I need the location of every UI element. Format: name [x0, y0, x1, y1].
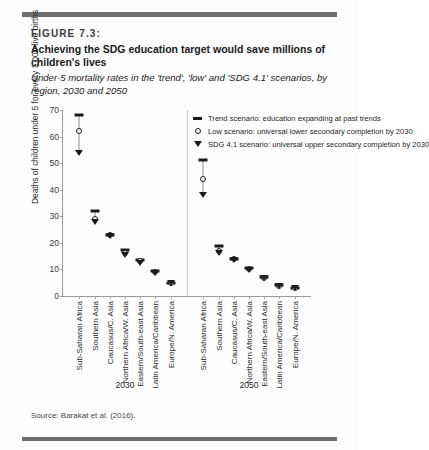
x-axis-category-text: Caucasus/C. Asia	[229, 301, 238, 364]
y-axis-tick-label: 70	[50, 105, 59, 115]
x-axis-category-text: Southern Asia	[214, 301, 223, 351]
legend-item: Trend scenario: education expanding at p…	[191, 112, 429, 124]
x-axis-category-text: Europe/N. America	[166, 301, 175, 368]
sdg-marker	[215, 250, 223, 256]
y-axis-tick-mark	[60, 269, 63, 270]
sdg-marker	[291, 285, 299, 291]
sdg-marker	[151, 270, 159, 276]
figure-title: Achieving the SDG education target would…	[31, 43, 331, 69]
figure-source: Source: Barakat et al. (2016).	[31, 411, 136, 420]
x-axis-tick-mark	[279, 296, 280, 299]
x-axis-tick-mark	[171, 296, 172, 299]
y-axis-tick-mark	[60, 296, 63, 297]
legend-marker	[191, 141, 204, 147]
x-axis-tick-mark	[219, 296, 220, 299]
trend-marker	[199, 159, 208, 162]
y-axis-tick-label: 40	[50, 185, 59, 195]
y-axis-tick-label: 60	[50, 132, 59, 142]
y-axis-tick-label: 10	[50, 264, 59, 274]
x-axis-category-text: Eastern/South-east Asia	[260, 301, 269, 387]
sdg-marker	[245, 267, 253, 273]
sdg-marker	[121, 252, 129, 258]
legend-marker	[191, 128, 204, 134]
y-axis-tick-mark	[60, 243, 63, 244]
x-axis-tick-mark	[234, 296, 235, 299]
sdg-marker	[260, 275, 268, 281]
y-axis-tick-mark	[60, 163, 63, 164]
trend-marker	[75, 114, 84, 117]
low-marker	[200, 176, 206, 182]
x-axis-category-text: Northern Africa/W. Asia	[121, 301, 130, 383]
figure-subtitle: Under-5 mortality rates in the 'trend', …	[31, 72, 333, 97]
sdg-marker	[167, 280, 175, 286]
x-axis-category-text: Latin America/Caribbean	[275, 301, 284, 389]
low-marker	[76, 128, 82, 134]
sdg-marker	[75, 150, 83, 156]
triangle-down-icon	[194, 141, 202, 147]
sdg-marker	[199, 192, 207, 198]
legend-item: SDG 4.1 scenario: universal upper second…	[191, 138, 429, 150]
chart-area: Deaths of children under 5 for every 1,0…	[0, 104, 359, 404]
sdg-marker	[230, 257, 238, 263]
chart-legend: Trend scenario: education expanding at p…	[191, 112, 429, 151]
x-axis-category-text: Sub-Saharan Africa	[199, 301, 208, 370]
sdg-marker	[136, 260, 144, 266]
x-axis-category-text: Northern Africa/W. Asia	[245, 301, 254, 383]
x-axis-tick-mark	[95, 296, 96, 299]
figure-label: FIGURE 7.3:	[31, 28, 101, 39]
trend-icon	[193, 117, 202, 120]
x-axis-group-label: 2050	[239, 380, 258, 390]
x-axis-category-text: Latin America/Caribbean	[151, 301, 160, 389]
legend-label: SDG 4.1 scenario: universal upper second…	[208, 140, 429, 149]
x-axis-category-text: Sub-Saharan Africa	[75, 301, 84, 370]
trend-marker	[90, 209, 99, 212]
y-axis-tick-mark	[60, 190, 63, 191]
x-axis-tick-mark	[79, 296, 80, 299]
legend-label: Low scenario: universal lower secondary …	[208, 127, 413, 136]
y-axis-tick-label: 30	[50, 211, 59, 221]
x-axis-tick-mark	[110, 296, 111, 299]
x-axis-tick-mark	[125, 296, 126, 299]
x-axis-tick-mark	[155, 296, 156, 299]
legend-marker	[191, 117, 204, 120]
sdg-marker	[91, 219, 99, 225]
legend-item: Low scenario: universal lower secondary …	[191, 125, 429, 137]
y-axis-title: Deaths of children under 5 for every 1,0…	[30, 10, 40, 204]
x-axis-category-text: Southern Asia	[90, 301, 99, 351]
x-axis-tick-mark	[203, 296, 204, 299]
trend-marker	[214, 244, 223, 247]
x-axis-category-text: Caucasus/C. Asia	[105, 301, 114, 364]
x-axis-tick-mark	[264, 296, 265, 299]
bottom-rule	[22, 437, 337, 441]
x-axis-tick-mark	[249, 296, 250, 299]
group-separator	[187, 110, 188, 296]
y-axis-tick-label: 0	[54, 291, 59, 301]
circle-icon	[195, 128, 201, 134]
x-axis-tick-mark	[295, 296, 296, 299]
legend-label: Trend scenario: education expanding at p…	[208, 114, 381, 123]
x-axis-category-label: Europe/N. America	[295, 301, 362, 310]
x-axis-category-text: Europe/N. America	[290, 301, 299, 368]
sdg-marker	[106, 233, 114, 239]
y-axis-tick-mark	[60, 216, 63, 217]
sdg-marker	[275, 283, 283, 289]
x-axis-category-text: Eastern/South-east Asia	[136, 301, 145, 387]
plot-region: Trend scenario: education expanding at p…	[62, 110, 311, 297]
y-axis-tick-label: 50	[50, 158, 59, 168]
y-axis-tick-mark	[60, 137, 63, 138]
y-axis-tick-mark	[60, 110, 63, 111]
x-axis-tick-mark	[140, 296, 141, 299]
y-axis-tick-label: 20	[50, 238, 59, 248]
top-rule	[22, 12, 337, 17]
x-axis-group-label: 2030	[115, 380, 134, 390]
